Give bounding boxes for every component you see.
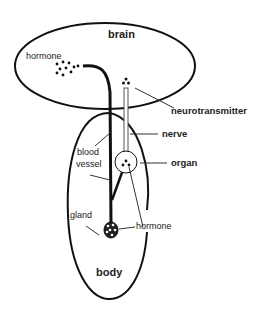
- nerve: [124, 88, 128, 152]
- label-body: body: [96, 267, 122, 278]
- label-vessel: vessel: [76, 160, 102, 169]
- hormone-dots-brain: [56, 61, 80, 77]
- label-nerve: nerve: [162, 129, 187, 139]
- label-gland: gland: [70, 211, 92, 220]
- label-blood: blood: [77, 148, 99, 157]
- brain-outline: [15, 23, 195, 109]
- gland: [104, 222, 118, 238]
- diagram-canvas: [0, 0, 263, 315]
- label-brain: brain: [108, 29, 135, 40]
- label-hormone-brain: hormone: [26, 52, 62, 61]
- label-hormone-gland: hormone: [136, 222, 172, 231]
- blood-vessel: [83, 66, 111, 225]
- label-organ: organ: [171, 158, 197, 168]
- label-neurotransmitter: neurotransmitter: [171, 106, 247, 116]
- neurotransmitter-dots: [122, 78, 130, 85]
